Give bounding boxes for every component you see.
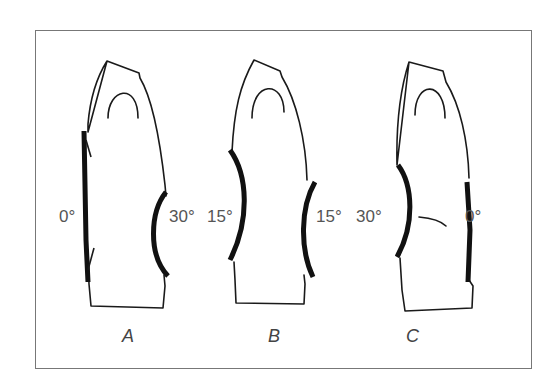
bar-right-b: [303, 182, 315, 277]
angle-label-b-right: 15°: [316, 208, 342, 225]
bar-left-a: [84, 131, 88, 282]
rib-dash-c: [419, 217, 446, 226]
angle-label-b-left: 15°: [207, 208, 233, 225]
head-arc-a: [108, 93, 138, 118]
angle-label-a-left: 0°: [59, 208, 75, 225]
caption-b: B: [268, 327, 280, 345]
angle-label-c-left: 30°: [356, 208, 382, 225]
bar-left-b: [230, 150, 244, 260]
torso-outline-a: [88, 61, 166, 308]
bar-right-a: [154, 192, 169, 276]
head-arc-b: [252, 89, 284, 118]
head-arc-c: [415, 89, 445, 118]
caption-a: A: [122, 327, 134, 345]
caption-c: C: [406, 327, 419, 345]
bar-left-c: [397, 165, 410, 257]
bar-right-c: [467, 182, 470, 282]
angle-label-c-right: 0°: [465, 208, 481, 225]
angle-label-a-right: 30°: [169, 208, 195, 225]
